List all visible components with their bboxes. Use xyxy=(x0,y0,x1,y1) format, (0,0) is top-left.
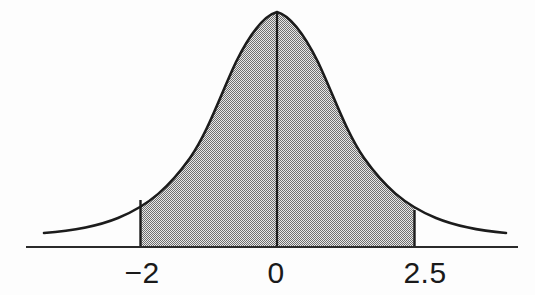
normal-distribution-figure: −2 0 2.5 xyxy=(0,0,535,295)
x-tick-label-zero: 0 xyxy=(267,258,284,288)
x-tick-label-minus-2: −2 xyxy=(124,258,159,288)
bell-curve-plot xyxy=(0,0,535,295)
shaded-area-region xyxy=(44,12,506,247)
x-tick-label-2-5: 2.5 xyxy=(403,258,446,288)
